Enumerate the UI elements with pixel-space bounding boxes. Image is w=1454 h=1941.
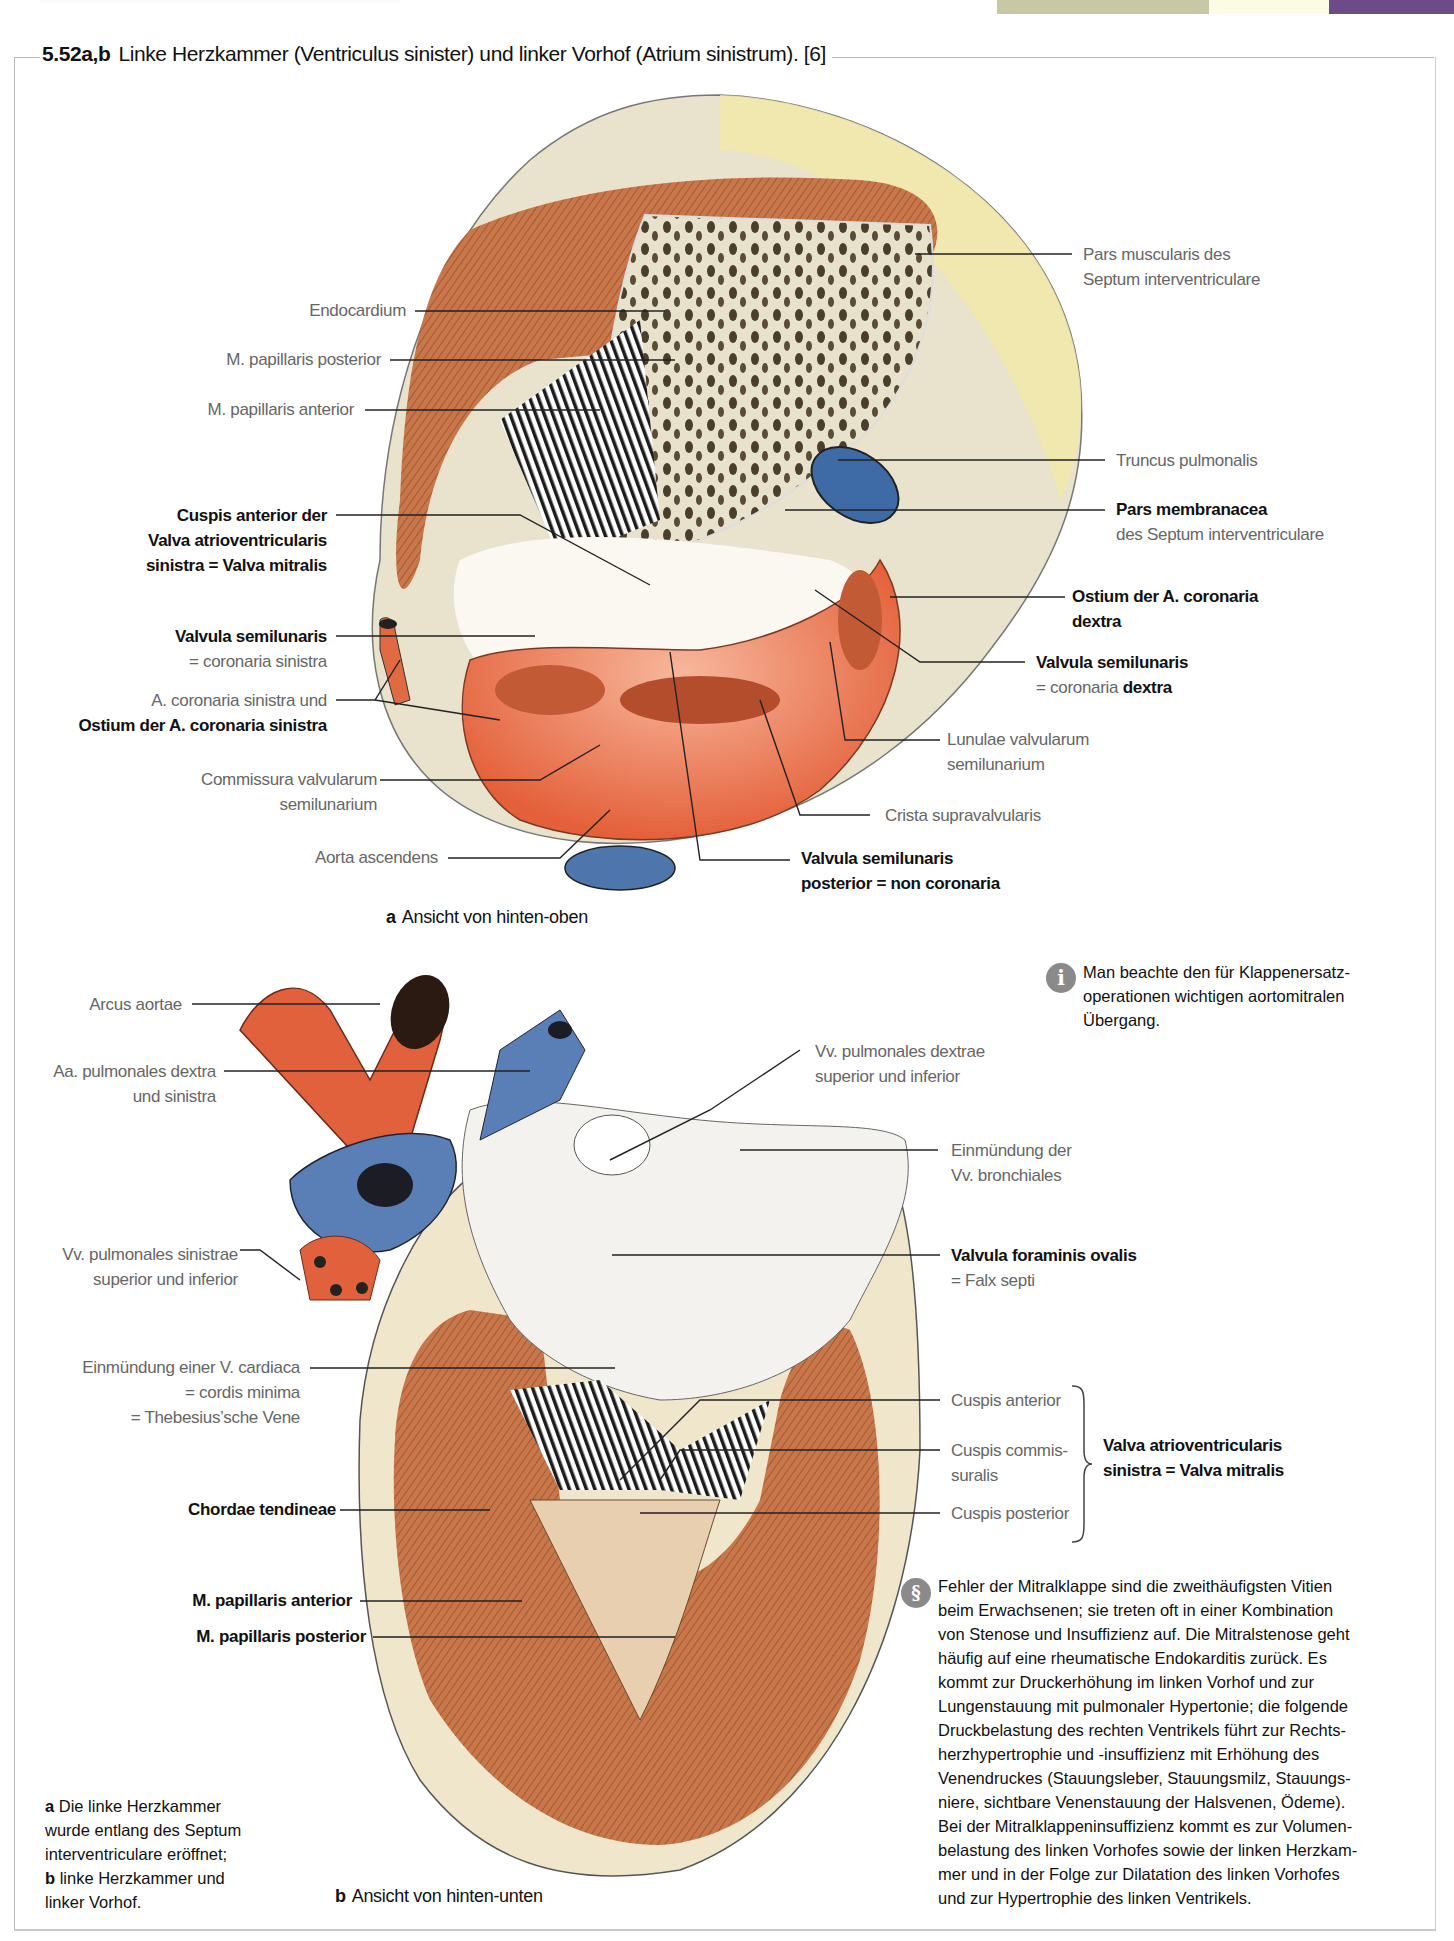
label-endocardium: Endocardium: [309, 298, 406, 323]
label-line: Ostium der A. coronaria: [1072, 584, 1258, 609]
legend-line: a Die linke Herzkammer: [45, 1794, 241, 1818]
info-note: Man beachte den für Klappenersatz- opera…: [1083, 960, 1350, 1032]
label-line: Valva atrioventricularis: [146, 528, 327, 553]
label-pars-membranacea: Pars membranacea des Septum interventric…: [1116, 497, 1324, 547]
note-line: niere, sichtbare Venenstauung der Halsve…: [938, 1790, 1357, 1814]
label-vv-bronchiales: Einmündung der Vv. bronchiales: [951, 1138, 1072, 1188]
label-line: dextra: [1072, 609, 1258, 634]
legend-text: Die linke Herzkammer: [59, 1797, 221, 1815]
note-line: und zur Hypertrophie des linken Ventrike…: [938, 1886, 1357, 1910]
note-line: herzhypertrophie und -insuffizienz mit E…: [938, 1742, 1357, 1766]
legend-line: wurde entlang des Septum: [45, 1818, 241, 1842]
label-arcus-aortae: Arcus aortae: [89, 992, 182, 1017]
label-lunulae: Lunulae valvularum semilunarium: [947, 727, 1089, 777]
label-cuspis-anterior-mitralis: Cuspis anterior der Valva atrioventricul…: [146, 503, 327, 578]
label-line: = Falx septi: [951, 1268, 1137, 1293]
legend-line: b linke Herzkammer und: [45, 1866, 241, 1890]
label-line: und sinistra: [53, 1084, 216, 1109]
label-line: Einmündung der: [951, 1138, 1072, 1163]
label-m-papillaris-posterior-a: M. papillaris posterior: [226, 347, 381, 372]
label-line: Ostium der A. coronaria sinistra: [78, 713, 327, 738]
label-v-cardiaca-minima: Einmündung einer V. cardiaca = cordis mi…: [82, 1355, 300, 1430]
label-line: = cordis minima: [82, 1380, 300, 1405]
label-valvula-semilunaris-sinistra: Valvula semilunaris = coronaria sinistra: [175, 624, 327, 674]
label-text: = coronaria: [1036, 678, 1118, 697]
label-line: = coronaria dextra: [1036, 675, 1188, 700]
note-line: häufig auf eine rheumatische Endokarditi…: [938, 1646, 1357, 1670]
label-line: Einmündung einer V. cardiaca: [82, 1355, 300, 1380]
caduceus-icon: §: [901, 1578, 931, 1608]
label-chordae-tendineae: Chordae tendineae: [188, 1497, 336, 1522]
label-m-papillaris-anterior-a: M. papillaris anterior: [208, 397, 354, 422]
label-line: superior und inferior: [815, 1064, 985, 1089]
info-icon: i: [1046, 963, 1076, 993]
note-line: Bei der Mitralklappeninsuffizienz kommt …: [938, 1814, 1357, 1838]
label-valvula-foraminis-ovalis: Valvula foraminis ovalis = Falx septi: [951, 1243, 1137, 1293]
label-truncus-pulmonalis: Truncus pulmonalis: [1116, 448, 1257, 473]
note-line: Lungenstauung mit pulmonaler Hypertonie;…: [938, 1694, 1357, 1718]
label-commissura-valvularum: Commissura valvularum semilunarium: [201, 767, 377, 817]
label-line: sinistra = Valva mitralis: [146, 553, 327, 578]
note-line: operationen wichtigen aortomitralen: [1083, 984, 1350, 1008]
label-line: A. coronaria sinistra und: [78, 688, 327, 713]
label-ostium-coronaria-dextra: Ostium der A. coronaria dextra: [1072, 584, 1258, 634]
clinical-note: Fehler der Mitralklappe sind die zweithä…: [938, 1574, 1357, 1910]
label-line: Valvula semilunaris: [1036, 650, 1188, 675]
label-line: Vv. pulmonales sinistrae: [62, 1242, 238, 1267]
caption-letter: a: [386, 907, 396, 927]
note-line: Fehler der Mitralklappe sind die zweithä…: [938, 1574, 1357, 1598]
label-cuspis-anterior-b: Cuspis anterior: [951, 1388, 1061, 1413]
note-line: mer und in der Folge zur Dilatation des …: [938, 1862, 1357, 1886]
label-vv-pulmonales-sinistrae: Vv. pulmonales sinistrae superior und in…: [62, 1242, 238, 1292]
label-text: dextra: [1123, 678, 1172, 697]
note-line: Venendruckes (Stauungsleber, Stauungsmil…: [938, 1766, 1357, 1790]
label-aa-pulmonales: Aa. pulmonales dextra und sinistra: [53, 1059, 216, 1109]
label-line: Cuspis commis-: [951, 1438, 1068, 1463]
label-line: semilunarium: [947, 752, 1089, 777]
caption-text: Ansicht von hinten-oben: [402, 907, 588, 927]
label-line: = coronaria sinistra: [175, 649, 327, 674]
label-line: Commissura valvularum: [201, 767, 377, 792]
label-line: Pars membranacea: [1116, 497, 1324, 522]
caption-text: Ansicht von hinten-unten: [352, 1886, 543, 1906]
heart-b: [240, 967, 920, 1876]
label-cuspis-posterior-b: Cuspis posterior: [951, 1501, 1069, 1526]
label-line: semilunarium: [201, 792, 377, 817]
label-line: Cuspis anterior der: [146, 503, 327, 528]
panel-a-caption: aAnsicht von hinten-oben: [386, 907, 588, 928]
note-line: Man beachte den für Klappenersatz-: [1083, 960, 1350, 984]
label-cuspis-commissuralis: Cuspis commis- suralis: [951, 1438, 1068, 1488]
legend-letter: a: [45, 1797, 54, 1815]
label-line: Aa. pulmonales dextra: [53, 1059, 216, 1084]
legend-text: linke Herzkammer und: [60, 1869, 225, 1887]
note-line: von Stenose und Insuffizienz auf. Die Mi…: [938, 1622, 1357, 1646]
label-line: Valvula semilunaris: [801, 846, 1000, 871]
label-crista-supravalvularis: Crista supravalvularis: [885, 803, 1041, 828]
label-line: Septum interventriculare: [1083, 267, 1260, 292]
label-m-papillaris-posterior-b: M. papillaris posterior: [196, 1624, 366, 1649]
label-line: sinistra = Valva mitralis: [1103, 1458, 1284, 1483]
label-line: Valvula foraminis ovalis: [951, 1243, 1137, 1268]
label-line: suralis: [951, 1463, 1068, 1488]
label-line: Pars muscularis des: [1083, 242, 1260, 267]
legend-line: linker Vorhof.: [45, 1890, 241, 1914]
legend-letter: b: [45, 1869, 55, 1887]
label-line: des Septum interventriculare: [1116, 522, 1324, 547]
label-line: Lunulae valvularum: [947, 727, 1089, 752]
label-line: superior und inferior: [62, 1267, 238, 1292]
label-pars-muscularis: Pars muscularis des Septum interventricu…: [1083, 242, 1260, 292]
label-line: posterior = non coronaria: [801, 871, 1000, 896]
note-line: kommt zur Druckerhöhung im linken Vorhof…: [938, 1670, 1357, 1694]
label-line: = Thebesius’sche Vene: [82, 1405, 300, 1430]
label-line: Valva atrioventricularis: [1103, 1433, 1284, 1458]
caption-letter: b: [335, 1886, 346, 1906]
note-line: Druckbelastung des rechten Ventrikels fü…: [938, 1718, 1357, 1742]
figure-legend: a Die linke Herzkammer wurde entlang des…: [45, 1794, 241, 1914]
label-line: Valvula semilunaris: [175, 624, 327, 649]
panel-b-caption: bAnsicht von hinten-unten: [335, 1886, 543, 1907]
brace-icon: [1070, 1384, 1094, 1544]
label-valvula-semilunaris-posterior: Valvula semilunaris posterior = non coro…: [801, 846, 1000, 896]
label-line: Vv. bronchiales: [951, 1163, 1072, 1188]
label-valvula-semilunaris-dextra: Valvula semilunaris = coronaria dextra: [1036, 650, 1188, 700]
label-a-coronaria-sinistra: A. coronaria sinistra und Ostium der A. …: [78, 688, 327, 738]
